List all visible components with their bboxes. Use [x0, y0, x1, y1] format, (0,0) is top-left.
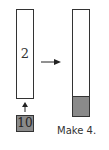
- up-arrow-icon: [22, 102, 28, 112]
- left-bar-label: 2: [17, 46, 33, 61]
- caption: Make 4.: [57, 125, 96, 136]
- right-arrow-icon: [41, 58, 61, 66]
- right-bar: [72, 9, 90, 117]
- left-bar: 2: [16, 9, 34, 99]
- right-bar-fill: [73, 96, 89, 116]
- input-box: 10: [16, 115, 34, 132]
